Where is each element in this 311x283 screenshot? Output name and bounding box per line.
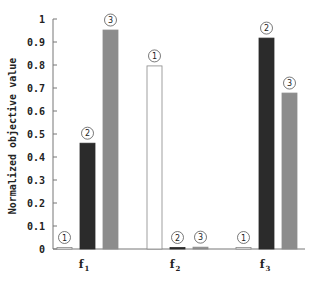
y-tick-label: 0.2 [27, 198, 45, 209]
bar-chart: 00.10.20.30.40.50.60.70.80.91 123123123 … [0, 0, 311, 283]
y-tick-label: 1 [39, 14, 45, 25]
svg-text:1: 1 [152, 52, 157, 61]
series-marker-2: 2 [172, 232, 184, 244]
y-tick-label: 0.3 [27, 175, 45, 186]
svg-text:3: 3 [287, 79, 292, 88]
series-marker-3: 3 [105, 14, 117, 26]
x-category-label: f3 [260, 258, 271, 273]
series-marker-3: 3 [195, 231, 207, 243]
bars: 123123123 [57, 14, 297, 249]
y-tick-label: 0.7 [27, 83, 45, 94]
svg-text:1: 1 [62, 234, 67, 243]
y-tick-label: 0.6 [27, 106, 45, 117]
svg-text:3: 3 [198, 233, 203, 242]
bar-f1-series-1: 1 [57, 232, 72, 250]
bar-f2-series-3: 3 [193, 231, 208, 249]
series-marker-1: 1 [238, 232, 250, 244]
x-category-label: f2 [170, 258, 181, 273]
y-tick-label: 0 [39, 244, 45, 255]
svg-text:1: 1 [241, 234, 246, 243]
series-marker-1: 1 [59, 232, 71, 244]
bar-f3-series-2: 2 [259, 22, 274, 249]
svg-text:2: 2 [264, 24, 269, 33]
svg-text:3: 3 [108, 16, 113, 25]
bar-f1-series-2: 2 [80, 127, 95, 249]
series-marker-1: 1 [149, 50, 161, 62]
y-tick-label: 0.4 [27, 152, 45, 163]
y-tick-label: 0.1 [27, 221, 45, 232]
bar-f3-series-3: 3 [282, 77, 297, 249]
bar-f2-series-1: 1 [147, 50, 162, 249]
y-axis: 00.10.20.30.40.50.60.70.80.91 [27, 14, 57, 255]
series-marker-2: 2 [261, 22, 273, 34]
y-tick-label: 0.9 [27, 37, 45, 48]
y-tick-label: 0.5 [27, 129, 45, 140]
svg-text:2: 2 [85, 129, 90, 138]
bar-f3-series-1: 1 [236, 232, 251, 250]
bar-f2-series-2: 2 [170, 232, 185, 250]
svg-text:2: 2 [175, 234, 180, 243]
series-marker-2: 2 [82, 127, 94, 139]
series-marker-3: 3 [284, 77, 296, 89]
x-category-label: f1 [79, 258, 90, 273]
category-labels: f1f2f3 [79, 258, 271, 273]
y-axis-label: Normalized objective value [7, 58, 18, 215]
y-tick-label: 0.8 [27, 60, 45, 71]
bar-f1-series-3: 3 [103, 14, 118, 249]
